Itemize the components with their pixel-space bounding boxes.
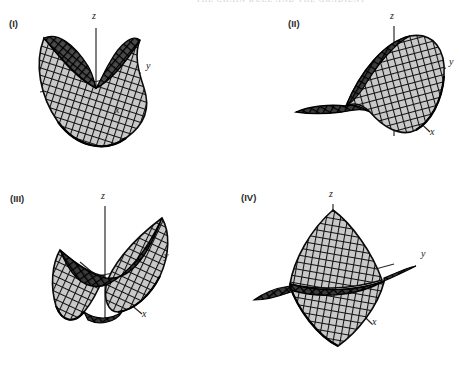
panel-2-x-label: x: [430, 126, 434, 137]
panel-2-left-tail: [296, 105, 370, 113]
panel-4-label: (IV): [241, 192, 256, 203]
panel-3-z-label: z: [101, 190, 105, 201]
panel-4: (IV): [232, 186, 461, 351]
panel-3: (III): [0, 188, 215, 348]
panel-4-x-label: x: [372, 316, 376, 327]
panel-1: (I): [0, 10, 210, 165]
panel-2: (II) z y x: [250, 10, 461, 165]
panel-2-label: (II): [288, 18, 300, 29]
panel-1-y-label: y: [146, 60, 150, 71]
panel-3-label: (III): [10, 193, 24, 204]
panel-4-z-label: z: [329, 188, 333, 199]
panel-1-surface-plot: [0, 10, 210, 165]
panel-4-left-wing: [254, 286, 290, 300]
panel-2-surface-plot: [250, 10, 461, 165]
panel-1-x-label: x: [115, 104, 119, 115]
panel-4-upper-lobe: [290, 210, 382, 288]
panel-3-y-label: y: [164, 250, 168, 261]
figure-page: THE CHAIN RULE AND THE GRADIENT (I): [0, 0, 461, 384]
running-header: THE CHAIN RULE AND THE GRADIENT: [196, 0, 461, 4]
panel-1-label: (I): [9, 18, 18, 29]
panel-4-right-wing: [384, 266, 416, 281]
panel-3-x-label: x: [142, 308, 146, 319]
panel-2-z-label: z: [390, 10, 394, 21]
panel-2-y-label: y: [449, 56, 453, 67]
panel-3-surface-plot: [0, 188, 215, 348]
panel-3-front-fold: [84, 312, 122, 323]
panel-4-y-label: y: [421, 248, 425, 259]
panel-1-z-label: z: [92, 10, 96, 21]
panel-4-surface-plot: [232, 186, 461, 351]
running-header-text: THE CHAIN RULE AND THE GRADIENT: [196, 0, 461, 4]
